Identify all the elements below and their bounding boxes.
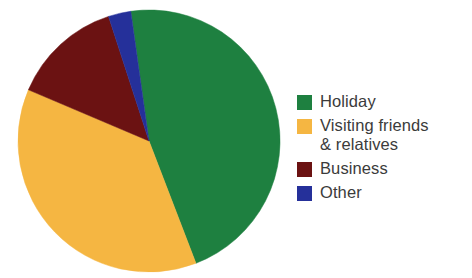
legend-item-other[interactable]: Other: [297, 183, 362, 202]
pie-chart-svg: [0, 0, 290, 278]
legend-label-business: Business: [320, 159, 388, 178]
pie-slice-group: [18, 10, 280, 272]
legend-swatch-business: [297, 162, 312, 177]
pie-chart-figure: Holiday Visiting friends & relatives Bus…: [0, 0, 472, 278]
chart-legend: Holiday Visiting friends & relatives Bus…: [297, 92, 469, 202]
pie-chart-plot-area: [0, 0, 290, 278]
legend-label-visiting-friends-relatives: Visiting friends & relatives: [320, 116, 429, 154]
legend-item-business[interactable]: Business: [297, 159, 388, 178]
legend-item-holiday[interactable]: Holiday: [297, 92, 376, 111]
legend-swatch-visiting-friends-relatives: [297, 119, 312, 134]
legend-label-holiday: Holiday: [320, 92, 376, 111]
legend-swatch-other: [297, 186, 312, 201]
legend-swatch-holiday: [297, 95, 312, 110]
legend-label-other: Other: [320, 183, 362, 202]
legend-item-visiting-friends-relatives[interactable]: Visiting friends & relatives: [297, 116, 429, 154]
